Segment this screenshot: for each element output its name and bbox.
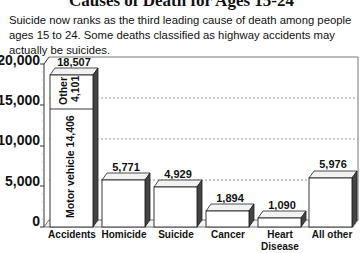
category-label-cancer: Cancer: [198, 229, 258, 241]
category-label-all-other: All other: [302, 229, 362, 241]
bar-heart-disease: [258, 211, 306, 227]
bar-suicide: [154, 180, 202, 227]
category-label-homicide: Homicide: [94, 229, 154, 241]
value-label-accidents: 18,507: [50, 56, 98, 68]
bar-homicide: [102, 173, 150, 227]
category-label-suicide: Suicide: [146, 229, 206, 241]
segment-label-other: Other4,101: [57, 76, 81, 105]
segment-label-motor-vehicle: Motor vehicle 14,406: [64, 115, 76, 218]
value-label-homicide: 5,771: [102, 161, 150, 173]
bar-cancer: [206, 204, 254, 227]
value-label-all-other: 5,976: [309, 158, 357, 170]
value-label-suicide: 4,929: [154, 168, 202, 180]
bar-all-other: [309, 171, 357, 227]
y-axis-ticks: [40, 64, 44, 227]
category-label-heart-disease: Heart Disease: [255, 229, 305, 253]
category-label-accidents: Accidents: [42, 229, 102, 241]
value-label-heart-disease: 1,090: [258, 199, 306, 211]
value-label-cancer: 1,894: [206, 192, 254, 204]
